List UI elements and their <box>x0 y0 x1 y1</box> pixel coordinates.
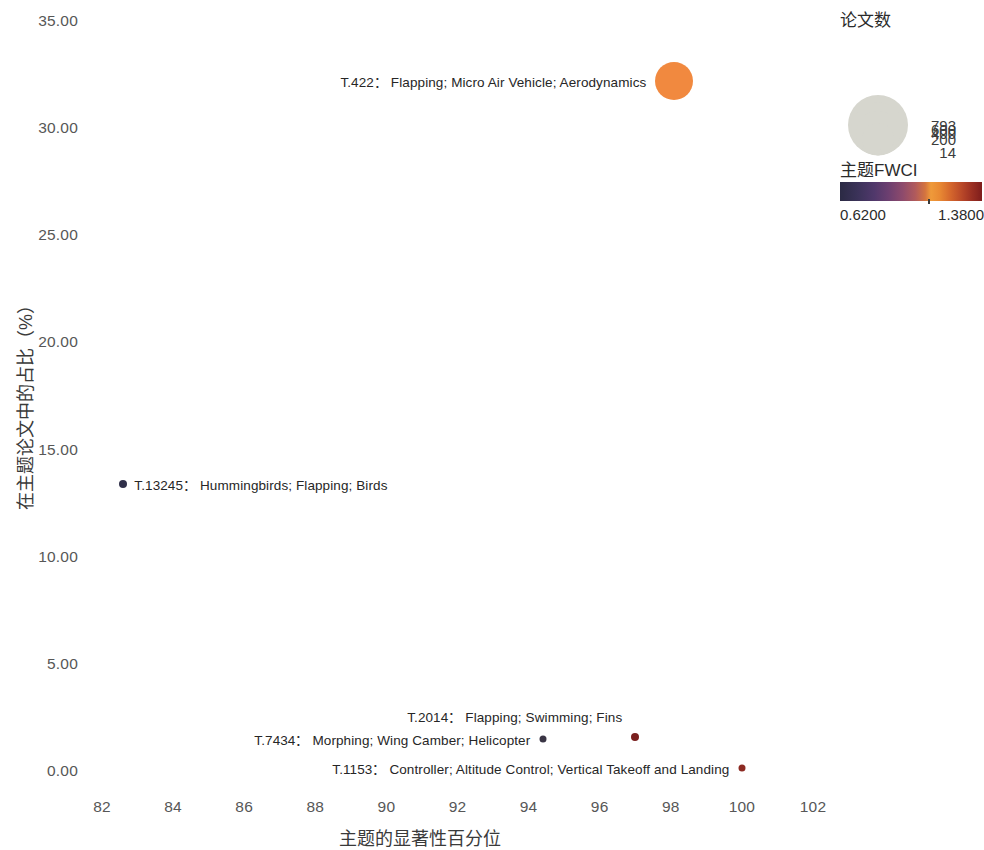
data-point-t-2014[interactable] <box>631 733 639 741</box>
data-point-t-7434[interactable] <box>539 735 546 742</box>
data-point-label: T.7434： Morphing; Wing Camber; Helicopte… <box>254 729 530 749</box>
x-tick-label: 100 <box>712 798 772 816</box>
x-axis-title: 主题的显著性百分位 <box>0 824 840 850</box>
colorbar-max-label: 1.3800 <box>938 206 984 223</box>
chart-legend: 论文数 14200400600793 主题FWCI 0.6200 1.3800 <box>836 6 984 155</box>
size-legend: 14200400600793 <box>836 37 984 155</box>
x-tick-label: 88 <box>285 798 345 816</box>
x-tick-label: 86 <box>214 798 274 816</box>
x-tick-label: 102 <box>783 798 843 816</box>
plot-area: T.422： Flapping; Micro Air Vehicle; Aero… <box>0 0 840 800</box>
data-point-label: T.1153： Controller; Altitude Control; Ve… <box>332 758 729 778</box>
x-tick-label: 90 <box>356 798 416 816</box>
x-tick-label: 96 <box>570 798 630 816</box>
data-point-label: T.13245： Hummingbirds; Flapping; Birds <box>134 474 387 494</box>
data-point-t-13245[interactable] <box>119 480 127 488</box>
size-legend-title: 论文数 <box>840 6 984 31</box>
data-point-t-1153[interactable] <box>738 764 745 771</box>
x-tick-label: 92 <box>428 798 488 816</box>
colorbar-min-label: 0.6200 <box>840 206 886 223</box>
size-legend-swatch <box>875 148 882 155</box>
data-point-label: T.2014： Flapping; Swimming; Fins <box>407 706 622 726</box>
data-point-label: T.422： Flapping; Micro Air Vehicle; Aero… <box>340 71 646 91</box>
x-tick-label: 94 <box>499 798 559 816</box>
x-tick-label: 98 <box>641 798 701 816</box>
x-tick-label: 84 <box>143 798 203 816</box>
colorbar-tick-marker <box>928 199 930 204</box>
color-legend: 主题FWCI 0.6200 1.3800 <box>836 156 984 187</box>
size-legend-label: 793 <box>912 117 956 134</box>
x-tick-label: 82 <box>72 798 132 816</box>
fwci-colorbar <box>840 182 982 201</box>
data-point-t-422[interactable] <box>655 62 693 100</box>
